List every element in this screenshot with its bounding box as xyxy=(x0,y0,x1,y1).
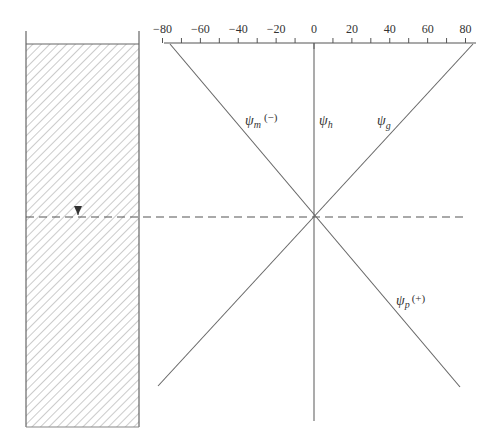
psi-h-label: ψh xyxy=(319,113,333,130)
potential-axis: −80−60−40−20020406080 xyxy=(153,22,476,49)
axis-tick-labels: −80−60−40−20020406080 xyxy=(153,22,471,36)
psi-g-label: ψg xyxy=(377,113,391,131)
axis-tick-label: 40 xyxy=(384,22,396,36)
axis-tick-label: 0 xyxy=(311,22,317,36)
soil-column xyxy=(26,31,139,427)
psi-m-label: ψm(−) xyxy=(245,111,278,130)
axis-tick-label: 60 xyxy=(422,22,434,36)
axis-tick-label: 80 xyxy=(460,22,472,36)
psi-g-line xyxy=(158,44,473,386)
axis-tick-label: −60 xyxy=(191,22,210,36)
axis-tick-label: 20 xyxy=(346,22,358,36)
psi-p-label: ψp(+) xyxy=(396,292,426,310)
axis-tick-label: −40 xyxy=(229,22,248,36)
potential-diagram: −80−60−40−20020406080 ψm(−) ψh ψg ψp(+) xyxy=(0,0,495,447)
axis-tick-label: −80 xyxy=(153,22,172,36)
axis-tick-label: −20 xyxy=(267,22,286,36)
